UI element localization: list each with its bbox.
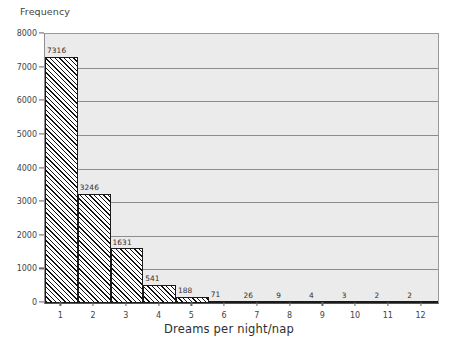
x-axis-tick-label: 8 xyxy=(287,311,292,320)
y-axis-tick-label: 2000 xyxy=(17,230,37,239)
y-axis-tick-label: 5000 xyxy=(17,129,37,138)
y-axis-tick-label: 7000 xyxy=(17,62,37,71)
y-axis-tick-label: 3000 xyxy=(17,197,37,206)
bar-value-label: 71 xyxy=(211,290,221,299)
x-axis-tick-mark xyxy=(60,302,61,306)
bar-value-label: 26 xyxy=(244,291,254,300)
x-axis: 123456789101112 xyxy=(44,302,437,324)
x-axis-tick-label: 3 xyxy=(123,311,128,320)
x-axis-title: Dreams per night/nap xyxy=(0,322,458,336)
y-axis-tick-label: 1000 xyxy=(17,264,37,273)
plot-area xyxy=(44,33,439,304)
x-axis-tick-label: 2 xyxy=(91,311,96,320)
histogram-chart: Frequency 010002000300040005000600070008… xyxy=(0,0,458,349)
bar-value-label: 541 xyxy=(145,274,159,283)
y-axis-tick-label: 8000 xyxy=(17,29,37,38)
y-axis-title: Frequency xyxy=(20,6,70,17)
x-axis-tick-mark xyxy=(158,302,159,306)
y-axis: 010002000300040005000600070008000 xyxy=(0,33,44,302)
bar-value-label: 1631 xyxy=(113,238,132,247)
x-axis-tick-label: 7 xyxy=(254,311,259,320)
x-axis-tick-mark xyxy=(420,302,421,306)
x-axis-tick-mark xyxy=(355,302,356,306)
bar xyxy=(45,57,78,303)
x-axis-tick-mark xyxy=(191,302,192,306)
x-axis-tick-label: 10 xyxy=(350,311,360,320)
bar xyxy=(111,248,144,303)
bar-value-label: 3 xyxy=(342,291,347,300)
bar-value-label: 2 xyxy=(407,291,412,300)
bar-value-label: 2 xyxy=(375,291,380,300)
x-axis-tick-label: 6 xyxy=(222,311,227,320)
x-axis-tick-label: 1 xyxy=(58,311,63,320)
x-axis-tick-mark xyxy=(125,302,126,306)
x-axis-tick-label: 11 xyxy=(383,311,393,320)
bar-value-label: 4 xyxy=(309,291,314,300)
bars-layer xyxy=(45,34,438,303)
bar-value-label: 3246 xyxy=(80,183,99,192)
x-axis-tick-mark xyxy=(387,302,388,306)
y-axis-tick-label: 4000 xyxy=(17,163,37,172)
bar-value-label: 9 xyxy=(276,291,281,300)
x-axis-tick-mark xyxy=(224,302,225,306)
y-axis-tick-label: 0 xyxy=(32,298,37,307)
x-axis-tick-mark xyxy=(289,302,290,306)
x-axis-tick-label: 9 xyxy=(320,311,325,320)
bar-value-label: 188 xyxy=(178,286,192,295)
bar xyxy=(143,285,176,303)
x-axis-tick-label: 5 xyxy=(189,311,194,320)
bar-value-label: 7316 xyxy=(47,46,66,55)
y-axis-tick-label: 6000 xyxy=(17,96,37,105)
x-axis-tick-label: 4 xyxy=(156,311,161,320)
x-axis-tick-label: 12 xyxy=(416,311,426,320)
x-axis-tick-mark xyxy=(256,302,257,306)
bar xyxy=(78,194,111,303)
x-axis-tick-mark xyxy=(322,302,323,306)
x-axis-tick-mark xyxy=(93,302,94,306)
